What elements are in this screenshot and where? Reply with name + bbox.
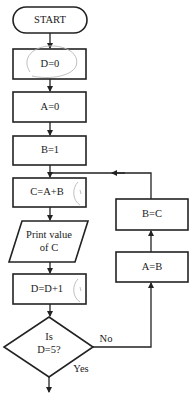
process-b-equals-c: B=C — [116, 199, 188, 230]
c-sum-label: C=A+B — [30, 186, 63, 197]
decision-line1: Is — [45, 331, 53, 342]
process-c-sum: C=A+B — [13, 178, 86, 207]
print-line2: of C — [40, 242, 58, 253]
io-print-c: Print value of C — [9, 221, 88, 262]
a-init-label: A=0 — [41, 101, 60, 112]
process-d-increment: D=D+1 — [13, 274, 86, 304]
flowchart: START D=0 A=0 B=1 C=A+B Print value of C… — [0, 0, 196, 400]
b-init-label: B=1 — [41, 144, 59, 155]
a-equals-b-label: A=B — [142, 261, 163, 272]
process-b-init: B=1 — [13, 136, 86, 165]
no-label: No — [100, 333, 113, 344]
decision-line2: D=5? — [37, 344, 61, 355]
process-d-init: D=0 — [13, 49, 86, 79]
d-increment-label: D=D+1 — [31, 283, 63, 294]
start-terminal: START — [13, 7, 87, 33]
print-line1: Print value — [26, 229, 72, 240]
process-a-init: A=0 — [13, 92, 86, 122]
d-init-label: D=0 — [41, 58, 60, 69]
start-label: START — [34, 14, 66, 25]
process-a-equals-b: A=B — [116, 252, 188, 282]
yes-label: Yes — [73, 363, 88, 374]
b-equals-c-label: B=C — [142, 208, 162, 219]
